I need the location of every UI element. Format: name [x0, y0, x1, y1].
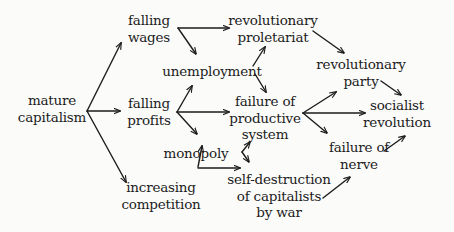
node-label-line: of capitalists	[227, 188, 330, 205]
node-label-line: failure of	[329, 139, 389, 156]
arrow-failure-productive-to-party	[303, 92, 336, 113]
node-label-line: self-destruction	[227, 171, 330, 188]
node-label-line: mature	[18, 92, 86, 109]
arrow-failure-productive-to-nerve	[303, 113, 327, 133]
node-label-line: productive	[229, 110, 300, 127]
arrow-mature-to-increasing-competition	[87, 111, 126, 182]
arrow-failure-productive-to-self-destruction	[242, 152, 249, 162]
node-revolutionary-proletariat: revolutionary proletariat	[228, 12, 317, 45]
node-failure-productive-system: failure of productive system	[229, 93, 300, 143]
node-revolutionary-party: revolutionary party	[316, 56, 405, 89]
node-label-line: monopoly	[164, 145, 229, 162]
node-label-line: failure of	[229, 93, 300, 110]
node-label-line: wages	[128, 29, 170, 46]
node-label-line: competition	[121, 196, 200, 213]
node-label-line: revolutionary	[316, 56, 405, 73]
node-socialist-revolution: socialist revolution	[363, 97, 431, 130]
node-failure-of-nerve: failure of nerve	[329, 139, 389, 172]
arrow-mature-to-falling-wages	[87, 43, 121, 111]
node-label-line: profits	[127, 112, 171, 129]
node-unemployment: unemployment	[162, 63, 261, 80]
node-label-line: nerve	[329, 156, 389, 173]
node-label-line: socialist	[363, 97, 431, 114]
node-label-line: falling	[127, 95, 171, 112]
arrow-self-destruction-to-failure-productive	[242, 142, 250, 152]
node-label-line: by war	[227, 204, 330, 221]
node-self-destruction: self-destruction of capitalists by war	[227, 171, 330, 221]
arrow-wages-to-unemployment	[178, 28, 196, 54]
node-falling-wages: falling wages	[128, 12, 170, 45]
node-label-line: capitalism	[18, 109, 86, 126]
causal-diagram: mature capitalism falling wages falling …	[0, 0, 454, 232]
node-label-line: party	[316, 73, 405, 90]
node-label-line: unemployment	[162, 63, 261, 80]
node-label-line: revolution	[363, 114, 431, 131]
node-label-line: increasing	[121, 179, 200, 196]
node-monopoly: monopoly	[164, 145, 229, 162]
node-label-line: falling	[128, 12, 170, 29]
node-label-line: revolutionary	[228, 12, 317, 29]
node-increasing-competition: increasing competition	[121, 179, 200, 212]
node-mature-capitalism: mature capitalism	[18, 92, 86, 125]
arrow-profits-to-unemployment	[177, 86, 192, 112]
arrow-profits-to-monopoly	[177, 112, 197, 134]
node-label-line: system	[229, 126, 300, 143]
node-label-line: proletariat	[228, 29, 317, 46]
node-falling-profits: falling profits	[127, 95, 171, 128]
